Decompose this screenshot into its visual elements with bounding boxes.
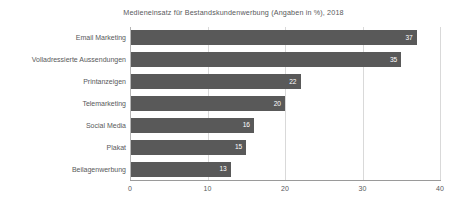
bar-row: 20 [130,96,440,111]
category-label: Beilagenwerbung [0,166,126,173]
x-tick-label: 20 [281,185,289,192]
bar-value-label: 13 [219,166,226,173]
bar: 22 [130,74,301,89]
bar: 20 [130,96,285,111]
bar-row: 37 [130,30,440,45]
bar-row: 15 [130,140,440,155]
category-label: Volladressierte Aussendungen [0,56,126,63]
category-label: Plakat [0,144,126,151]
bar-row: 22 [130,74,440,89]
bar: 37 [130,30,417,45]
bar: 16 [130,118,254,133]
gridline-40 [440,27,441,180]
bar: 35 [130,52,401,67]
bar-row: 13 [130,162,440,177]
y-axis-line [130,27,131,180]
bar-row: 16 [130,118,440,133]
x-tick-label: 40 [436,185,444,192]
bar-chart: Medieneinsatz für Bestandskundenwerbung … [0,0,467,210]
x-axis-line [130,180,441,181]
x-tick-label: 10 [204,185,212,192]
bar-value-label: 20 [274,100,281,107]
bar-row: 35 [130,52,440,67]
bar: 13 [130,162,231,177]
x-tick-label: 0 [128,185,132,192]
bar-value-label: 16 [243,122,250,129]
category-label: Email Marketing [0,34,126,41]
chart-title: Medieneinsatz für Bestandskundenwerbung … [0,8,467,17]
bar-value-label: 37 [405,35,412,42]
plot-area: 37352220161513 [130,27,440,180]
bar: 15 [130,140,246,155]
category-label: Telemarketing [0,100,126,107]
category-label: Printanzeigen [0,78,126,85]
bar-value-label: 22 [289,78,296,85]
bar-value-label: 15 [235,144,242,151]
bar-value-label: 35 [390,56,397,63]
x-tick-label: 30 [359,185,367,192]
category-axis: Email MarketingVolladressierte Aussendun… [0,27,126,180]
category-label: Social Media [0,122,126,129]
